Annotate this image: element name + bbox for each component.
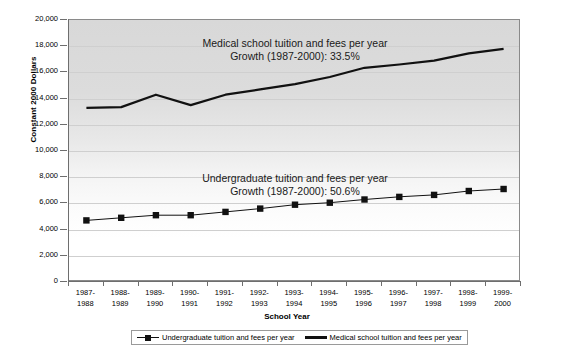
medical-annotation-line1: Medical school tuition and fees per year	[155, 37, 435, 50]
x-axis-title: School Year	[0, 312, 574, 321]
medical-annotation-line2: Growth (1987-2000): 33.5%	[155, 50, 435, 63]
x-axis-tick	[172, 281, 173, 286]
y-axis-tick	[60, 71, 67, 72]
line-marker-icon	[137, 333, 159, 342]
x-axis-tick	[277, 281, 278, 286]
x-axis-tick	[381, 281, 382, 286]
x-axis-line	[68, 281, 521, 282]
y-axis-tick-label: 12,000	[0, 119, 58, 128]
plot-area: Medical school tuition and fees per year…	[68, 19, 520, 281]
y-axis-tick	[60, 176, 67, 177]
chart-legend: Undergraduate tuition and fees per year …	[131, 330, 468, 345]
y-axis-tick-label: 10,000	[0, 145, 58, 154]
data-point-marker	[327, 200, 333, 206]
y-axis-tick	[60, 281, 67, 282]
legend-label-medical: Medical school tuition and fees per year	[330, 333, 462, 342]
x-axis-tick	[207, 281, 208, 286]
data-point-marker	[292, 202, 298, 208]
y-axis-tick-label: 14,000	[0, 93, 58, 102]
y-axis-tick-label: 8,000	[0, 171, 58, 180]
x-axis-tick	[485, 281, 486, 286]
data-point-marker	[500, 186, 506, 192]
line-thick-icon	[305, 333, 327, 342]
y-axis-tick-label: 6,000	[0, 197, 58, 206]
y-axis-tick-label: 4,000	[0, 224, 58, 233]
y-axis-tick	[60, 19, 67, 20]
data-point-marker	[188, 212, 194, 218]
x-axis-tick	[450, 281, 451, 286]
legend-item-undergraduate: Undergraduate tuition and fees per year	[137, 333, 295, 342]
x-axis-tick	[242, 281, 243, 286]
y-axis-tick-label: 0	[0, 276, 58, 285]
y-axis-tick	[60, 98, 67, 99]
x-axis-tick	[520, 281, 521, 286]
data-point-marker	[466, 188, 472, 194]
y-axis-tick	[60, 255, 67, 256]
undergraduate-annotation: Undergraduate tuition and fees per year …	[155, 172, 435, 198]
legend-item-medical: Medical school tuition and fees per year	[305, 333, 462, 342]
y-axis-tick	[60, 45, 67, 46]
x-axis-tick	[68, 281, 69, 286]
legend-label-undergraduate: Undergraduate tuition and fees per year	[162, 333, 295, 342]
x-axis-tick-label: 1999-2000	[480, 288, 526, 309]
y-axis-line	[68, 19, 69, 281]
x-axis-tick	[103, 281, 104, 286]
undergraduate-annotation-line2: Growth (1987-2000): 50.6%	[155, 185, 435, 198]
data-point-marker	[83, 217, 89, 223]
y-axis-tick	[60, 150, 67, 151]
y-axis-tick	[60, 202, 67, 203]
data-point-marker	[257, 205, 263, 211]
x-axis-tick	[138, 281, 139, 286]
y-axis-tick	[60, 229, 67, 230]
y-axis-tick	[60, 124, 67, 125]
y-axis-tick-label: 18,000	[0, 40, 58, 49]
y-axis-tick-label: 2,000	[0, 250, 58, 259]
data-point-marker	[153, 212, 159, 218]
x-axis-tick	[416, 281, 417, 286]
medical-annotation: Medical school tuition and fees per year…	[155, 37, 435, 63]
chart-container: Constant 2000 Dollars 20,00018,00016,000…	[0, 0, 574, 360]
y-axis-tick-label: 20,000	[0, 14, 58, 23]
x-axis-tick	[346, 281, 347, 286]
data-point-marker	[118, 215, 124, 221]
x-axis-tick	[311, 281, 312, 286]
data-point-marker	[222, 209, 228, 215]
y-axis-tick-label: 16,000	[0, 66, 58, 75]
undergraduate-annotation-line1: Undergraduate tuition and fees per year	[155, 172, 435, 185]
